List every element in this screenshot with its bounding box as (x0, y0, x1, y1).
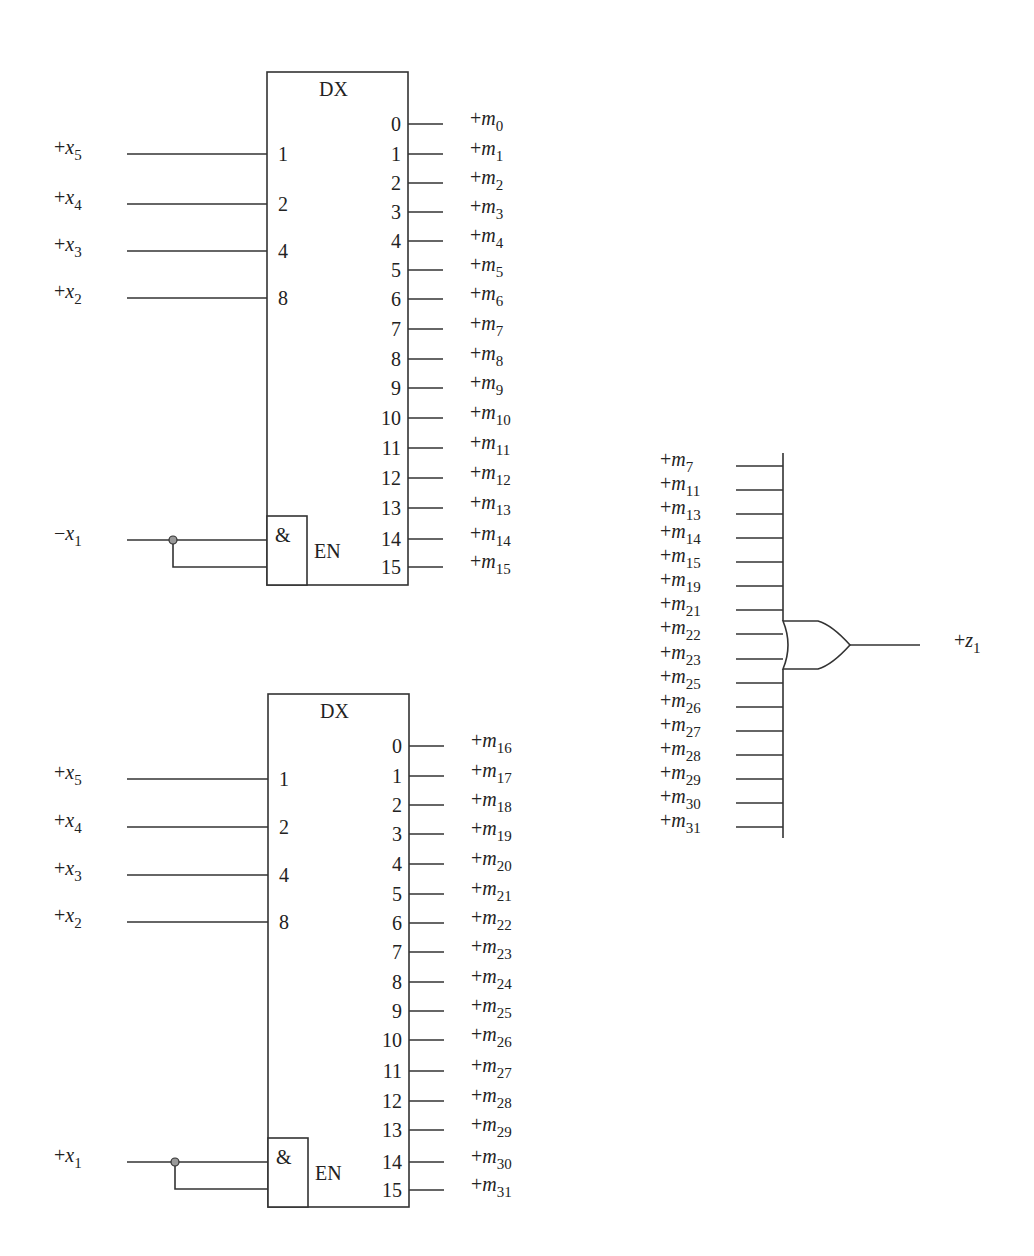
signal-subscript: 3 (496, 206, 504, 222)
signal-sign: + (470, 461, 481, 483)
signal-variable: m (671, 641, 685, 663)
or-input-signal-label: +m30 (660, 785, 701, 812)
signal-sign: + (470, 491, 481, 513)
dx-top: DX1+x52+x44+x38+x20+m01+m12+m23+m34+m45+… (54, 72, 511, 585)
signal-subscript: 4 (496, 235, 504, 251)
or-input-signal-label: +m31 (660, 809, 701, 836)
output-signal-label: +m22 (471, 906, 512, 933)
signal-sign: + (471, 877, 482, 899)
signal-sign: + (660, 520, 671, 542)
signal-sign: + (471, 1145, 482, 1167)
output-pin-label: 7 (392, 941, 402, 963)
signal-variable: m (482, 1113, 496, 1135)
signal-subscript: 26 (686, 700, 702, 716)
output-pin-label: 8 (392, 971, 402, 993)
signal-variable: m (671, 737, 685, 759)
dx-bottom: DX1+x52+x44+x38+x20+m161+m172+m183+m194+… (54, 694, 512, 1207)
output-signal-label: +m18 (471, 788, 512, 815)
signal-subscript: 1 (973, 640, 981, 656)
output-signal-label: +m31 (471, 1173, 512, 1200)
signal-subscript: 2 (74, 291, 82, 307)
output-pin-label: 0 (392, 735, 402, 757)
signal-variable: m (481, 195, 495, 217)
output-pin-label: 13 (381, 497, 401, 519)
signal-sign: + (54, 280, 65, 302)
signal-sign: + (470, 107, 481, 129)
signal-variable: m (671, 568, 685, 590)
signal-subscript: 6 (496, 293, 504, 309)
signal-subscript: 5 (496, 264, 504, 280)
signal-variable: x (64, 136, 74, 158)
signal-sign: + (470, 166, 481, 188)
input-pin-label: 8 (278, 287, 288, 309)
signal-subscript: 17 (497, 770, 513, 786)
signal-subscript: 20 (497, 858, 512, 874)
signal-sign: + (660, 785, 671, 807)
or-input-signal-label: +m29 (660, 761, 701, 788)
signal-variable: m (482, 935, 496, 957)
output-signal-label: +m30 (471, 1145, 512, 1172)
signal-variable: x (64, 233, 74, 255)
signal-variable: m (482, 965, 496, 987)
output-pin-label: 11 (383, 1060, 402, 1082)
or-input-signal-label: +m23 (660, 641, 701, 668)
signal-subscript: 22 (686, 627, 701, 643)
input-signal-label: +x5 (54, 761, 82, 788)
signal-variable: m (481, 342, 495, 364)
signal-sign: + (660, 448, 671, 470)
input-signal-label: +x3 (54, 233, 82, 260)
signal-subscript: 3 (74, 244, 82, 260)
signal-subscript: 3 (74, 868, 82, 884)
signal-variable: m (482, 817, 496, 839)
signal-subscript: 5 (74, 772, 82, 788)
signal-subscript: 22 (497, 917, 512, 933)
signal-variable: m (671, 665, 685, 687)
signal-variable: m (481, 371, 495, 393)
output-pin-label: 0 (391, 113, 401, 135)
input-signal-label: +x4 (54, 809, 82, 836)
signal-subscript: 14 (686, 531, 702, 547)
enable-branch-wire (173, 540, 267, 567)
signal-subscript: 31 (686, 820, 701, 836)
decoder-title: DX (319, 78, 348, 100)
signal-sign: + (471, 788, 482, 810)
signal-variable: m (671, 472, 685, 494)
signal-subscript: 12 (496, 472, 511, 488)
output-pin-label: 1 (391, 143, 401, 165)
signal-subscript: 27 (497, 1065, 513, 1081)
output-signal-label: +m21 (471, 877, 512, 904)
signal-variable: m (481, 107, 495, 129)
signal-variable: m (671, 809, 685, 831)
signal-subscript: 13 (686, 507, 701, 523)
output-pin-label: 3 (392, 823, 402, 845)
output-pin-label: 9 (391, 377, 401, 399)
signal-variable: m (671, 616, 685, 638)
output-pin-label: 4 (392, 853, 402, 875)
signal-variable: z (964, 629, 973, 651)
input-signal-label: +x2 (54, 904, 82, 931)
input-pin-label: 4 (278, 240, 288, 262)
signal-subscript: 25 (686, 676, 701, 692)
signal-subscript: 16 (497, 740, 513, 756)
signal-subscript: 2 (74, 915, 82, 931)
output-pin-label: 14 (382, 1151, 402, 1173)
junction-dot-icon (171, 1158, 179, 1166)
output-pin-label: 5 (392, 883, 402, 905)
signal-variable: m (481, 461, 495, 483)
signal-sign: + (660, 568, 671, 590)
output-pin-label: 3 (391, 201, 401, 223)
signal-subscript: 21 (686, 603, 701, 619)
signal-variable: m (481, 550, 495, 572)
signal-sign: + (471, 935, 482, 957)
signal-sign: + (471, 729, 482, 751)
output-signal-label: +m1 (470, 137, 503, 164)
output-pin-label: 1 (392, 765, 402, 787)
signal-variable: m (671, 448, 685, 470)
signal-subscript: 28 (497, 1095, 512, 1111)
and-symbol: & (276, 1146, 292, 1168)
output-signal-label: +m3 (470, 195, 503, 222)
signal-subscript: 0 (496, 118, 504, 134)
signal-sign: + (54, 136, 65, 158)
signal-subscript: 23 (686, 652, 701, 668)
signal-variable: x (64, 522, 74, 544)
